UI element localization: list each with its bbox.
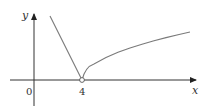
y-axis-label: y (21, 9, 29, 22)
x-tick-label-4: 4 (79, 86, 85, 97)
right-branch-curve (82, 32, 190, 80)
origin-label: 0 (26, 86, 32, 97)
open-circle-marker (80, 78, 85, 83)
left-branch-line (50, 16, 81, 78)
chart-canvas: y x 0 4 (0, 0, 210, 112)
x-axis-label: x (192, 84, 199, 97)
